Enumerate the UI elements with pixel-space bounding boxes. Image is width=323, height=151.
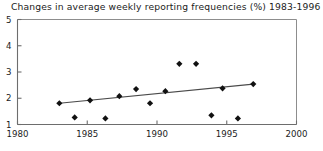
x-tick-label-1990: 1990 — [146, 129, 168, 139]
y-axis-ticks — [18, 20, 22, 125]
y-tick-label-5: 5 — [6, 15, 11, 25]
data-point — [147, 100, 153, 106]
data-point — [102, 115, 108, 121]
data-point-group — [56, 61, 256, 122]
data-point — [133, 86, 139, 92]
data-point — [208, 112, 214, 118]
y-tick-label-4: 4 — [6, 41, 11, 51]
y-tick-label-2: 2 — [6, 93, 11, 103]
data-point — [72, 114, 78, 120]
data-point — [193, 61, 199, 67]
scatter-plot-canvas: 12345 19801985199019952000 — [0, 0, 323, 151]
data-point — [250, 81, 256, 87]
x-tick-label-2000: 2000 — [286, 129, 308, 139]
x-tick-label-1980: 1980 — [7, 129, 29, 139]
x-axis-tick-labels: 19801985199019952000 — [7, 129, 308, 139]
data-point — [176, 61, 182, 67]
x-tick-label-1995: 1995 — [216, 129, 238, 139]
data-point — [116, 93, 122, 99]
chart-figure: Changes in average weekly reporting freq… — [0, 0, 323, 151]
x-tick-label-1985: 1985 — [76, 129, 98, 139]
y-tick-label-3: 3 — [6, 67, 11, 77]
data-point — [56, 100, 62, 106]
y-axis-tick-labels: 12345 — [6, 15, 11, 130]
data-point — [235, 115, 241, 121]
x-axis-ticks — [18, 121, 297, 125]
data-point — [87, 97, 93, 103]
data-point — [219, 85, 225, 91]
plot-frame — [18, 20, 297, 125]
plot-frame-top-right — [18, 20, 297, 125]
